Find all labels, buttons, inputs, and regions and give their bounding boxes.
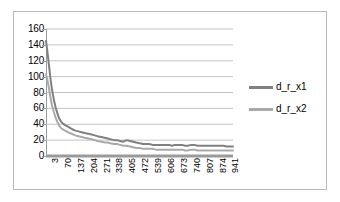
y-tick-mark: [42, 77, 46, 78]
y-tick-label: 160: [13, 24, 44, 34]
x-tick-label: 874: [219, 158, 228, 188]
y-tick-mark: [42, 93, 46, 94]
legend-entry-d_r_x1[interactable]: d_r_x1: [249, 80, 307, 94]
x-tick-label: 673: [180, 158, 189, 188]
y-tick-label: 80: [13, 88, 44, 98]
x-tick-label: 472: [141, 158, 150, 188]
x-tick-label: 606: [167, 158, 176, 188]
x-tick-label: 338: [115, 158, 124, 188]
y-tick-mark: [42, 45, 46, 46]
x-tick-label: 405: [128, 158, 137, 188]
y-tick-mark: [42, 61, 46, 62]
legend-swatch-icon: [249, 86, 273, 89]
chart-legend: d_r_x1d_r_x2: [249, 80, 325, 118]
y-tick-mark: [42, 124, 46, 125]
x-tick-label: 740: [193, 158, 202, 188]
series-line-d_r_x1: [46, 41, 233, 147]
x-tick-label: 941: [231, 158, 240, 188]
y-tick-mark: [42, 156, 46, 157]
plot-area: [46, 29, 233, 156]
y-tick-label: 0: [13, 151, 44, 161]
y-tick-mark: [42, 108, 46, 109]
y-axis-labels: 160140120100806040200: [13, 22, 44, 163]
series-line-d_r_x2: [46, 74, 233, 150]
y-tick-label: 140: [13, 40, 44, 50]
legend-label: d_r_x1: [276, 82, 307, 92]
x-tick-label: 70: [64, 158, 73, 188]
x-tick-label: 539: [154, 158, 163, 188]
x-tick-label: 807: [206, 158, 215, 188]
legend-entry-d_r_x2[interactable]: d_r_x2: [249, 102, 307, 116]
y-tick-label: 120: [13, 56, 44, 66]
series-lines: [46, 29, 233, 156]
x-tick-label: 271: [103, 158, 112, 188]
x-tick-label: 204: [90, 158, 99, 188]
y-tick-label: 100: [13, 72, 44, 82]
x-tick-label: 137: [77, 158, 86, 188]
legend-label: d_r_x2: [276, 104, 307, 114]
y-tick-label: 40: [13, 119, 44, 129]
legend-swatch-icon: [249, 108, 273, 111]
y-tick-mark: [42, 140, 46, 141]
chart-container: 160140120100806040200 370137204271338405…: [0, 0, 340, 202]
x-tick-label: 3: [51, 158, 60, 188]
y-tick-label: 60: [13, 103, 44, 113]
x-axis-labels: 3701372042713384054725396066737408078749…: [46, 158, 233, 188]
y-tick-label: 20: [13, 135, 44, 145]
y-tick-mark: [42, 29, 46, 30]
